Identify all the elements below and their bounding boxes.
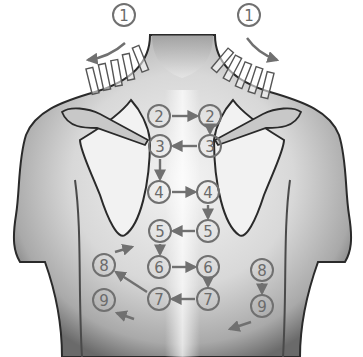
marker-label: 3 <box>205 138 215 156</box>
spine-highlight <box>165 90 200 357</box>
marker-label: 9 <box>257 298 267 316</box>
marker-label: 2 <box>205 108 215 126</box>
marker-label: 7 <box>203 291 213 309</box>
marker-label: 5 <box>155 223 165 241</box>
marker-label: 6 <box>203 259 213 277</box>
marker-label: 7 <box>154 291 164 309</box>
step-marker-1: 1 <box>238 4 260 26</box>
marker-label: 5 <box>203 223 213 241</box>
marker-label: 9 <box>99 292 109 310</box>
marker-label: 1 <box>244 7 254 25</box>
back-diagram: 112233445566778899 <box>0 0 363 357</box>
marker-label: 3 <box>155 138 165 156</box>
step-marker-1: 1 <box>113 4 135 26</box>
marker-label: 8 <box>257 262 267 280</box>
left-curved-arrow-icon <box>88 43 125 60</box>
right-curved-arrow-icon <box>247 38 277 60</box>
marker-label: 2 <box>154 108 164 126</box>
marker-label: 1 <box>119 7 129 25</box>
marker-label: 4 <box>203 184 213 202</box>
marker-label: 4 <box>154 184 164 202</box>
marker-label: 6 <box>154 259 164 277</box>
marker-label: 8 <box>99 257 109 275</box>
